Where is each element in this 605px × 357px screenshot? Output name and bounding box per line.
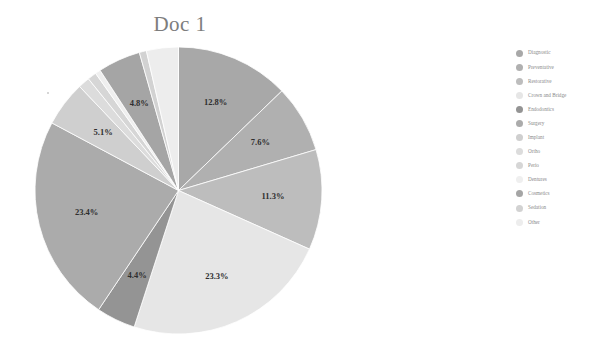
legend-swatch-icon — [516, 219, 523, 226]
legend-item[interactable]: Dentures — [516, 173, 604, 187]
legend-item[interactable]: Preventative — [516, 60, 604, 74]
legend-swatch-icon — [516, 190, 523, 197]
legend-swatch-icon — [516, 176, 523, 183]
legend-item[interactable]: Cosmetics — [516, 187, 604, 201]
legend-item[interactable]: Other — [516, 215, 604, 229]
legend-item[interactable]: Perio — [516, 159, 604, 173]
legend-item[interactable]: Endodontics — [516, 102, 604, 116]
legend-item[interactable]: Sedation — [516, 201, 604, 215]
legend-item-label: Cosmetics — [528, 191, 550, 196]
legend-item-label: Other — [528, 220, 540, 225]
legend-item[interactable]: Restorative — [516, 74, 604, 88]
legend-item-label: Restorative — [528, 79, 552, 84]
pie-slice-label: 11.3% — [262, 191, 285, 201]
pie-chart: 12.8%7.6%11.3%23.3%4.4%23.4%5.1%4.8% — [35, 47, 322, 334]
pie-slice-label: 4.4% — [128, 270, 147, 280]
pie-slice-label: 23.3% — [205, 271, 228, 281]
pie-slice-label: 5.1% — [94, 127, 113, 137]
pie-slice-label: 12.8% — [204, 97, 227, 107]
legend-swatch-icon — [516, 120, 523, 127]
legend-item-label: Diagnostic — [528, 50, 550, 55]
legend-swatch-icon — [516, 134, 523, 141]
pie-slice-label: 23.4% — [75, 207, 98, 217]
legend-swatch-icon — [516, 148, 523, 155]
legend-swatch-icon — [516, 92, 523, 99]
legend: DiagnosticPreventativeRestorativeCrown a… — [516, 46, 604, 229]
pie-slice-label: 4.8% — [130, 98, 149, 108]
legend-swatch-icon — [516, 50, 523, 57]
legend-swatch-icon — [516, 205, 523, 212]
legend-item[interactable]: Surgery — [516, 116, 604, 130]
legend-item-label: Endodontics — [528, 107, 554, 112]
pie-chart-page: Doc 1 12.8%7.6%11.3%23.3%4.4%23.4%5.1%4.… — [0, 0, 605, 357]
legend-item-label: Implant — [528, 135, 544, 140]
pie-chart-svg: 12.8%7.6%11.3%23.3%4.4%23.4%5.1%4.8% — [35, 47, 322, 334]
legend-swatch-icon — [516, 64, 523, 71]
pie-slice-label: 7.6% — [251, 137, 270, 147]
legend-item-label: Sedation — [528, 205, 546, 210]
legend-swatch-icon — [516, 106, 523, 113]
legend-item-label: Surgery — [528, 121, 544, 126]
legend-swatch-icon — [516, 78, 523, 85]
legend-item-label: Perio — [528, 163, 539, 168]
legend-item-label: Preventative — [528, 65, 554, 70]
legend-item[interactable]: Diagnostic — [516, 46, 604, 60]
legend-item[interactable]: Ortho — [516, 145, 604, 159]
legend-item-label: Ortho — [528, 149, 540, 154]
legend-item-label: Dentures — [528, 177, 547, 182]
chart-title: Doc 1 — [0, 12, 360, 37]
legend-item[interactable]: Implant — [516, 131, 604, 145]
legend-item[interactable]: Crown and Bridge — [516, 88, 604, 102]
legend-swatch-icon — [516, 162, 523, 169]
legend-item-label: Crown and Bridge — [528, 93, 566, 98]
